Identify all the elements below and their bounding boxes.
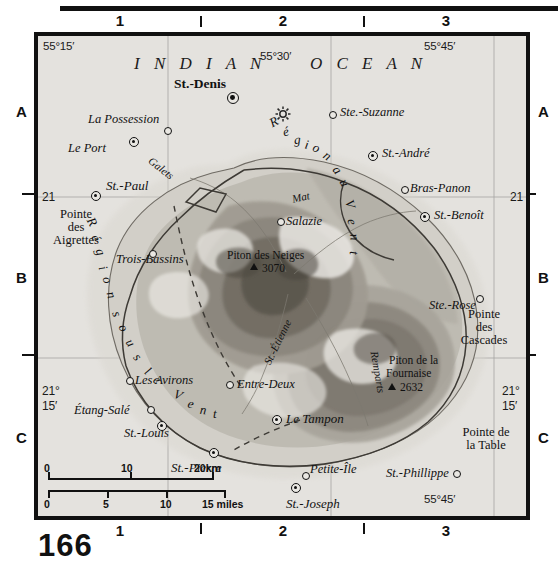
- peak-elevation-piton-de-la-fournaise: 2632: [400, 381, 423, 393]
- page-number: 166: [38, 528, 93, 564]
- latitude-label-left-lower-deg: 21°: [42, 384, 60, 398]
- grid-tick-top-2: [363, 16, 365, 27]
- town-label-bras-panon[interactable]: Bras-Panon: [410, 181, 470, 196]
- town-symbol-st-benoit[interactable]: [420, 212, 430, 222]
- peak-label-piton-de-la-fournaise-line2: Fournaise: [386, 367, 431, 379]
- town-label-la-possession[interactable]: La Possession: [88, 112, 159, 127]
- scale-mi-tick-10: [166, 490, 168, 498]
- grid-column-top-2: 2: [271, 12, 295, 29]
- city-label-st-denis[interactable]: St.-Denis: [174, 76, 226, 92]
- town-symbol-le-tampon[interactable]: [272, 415, 282, 425]
- town-symbol-les-avirons[interactable]: [126, 377, 134, 385]
- latitude-label-left-lower-min: 15′: [42, 399, 57, 413]
- scale-mi-tick-15: [224, 490, 226, 498]
- peak-marker-piton-des-neiges: [250, 263, 258, 270]
- grid-row-right-b: B: [538, 269, 549, 286]
- ocean-label-ocean: O C E A N: [310, 54, 427, 74]
- cape-label-pointe-des-cascades: Pointe des Cascades: [444, 308, 524, 347]
- grid-row-right-a: A: [538, 103, 549, 120]
- scale-mi-0: 0: [44, 498, 50, 510]
- town-label-salazie[interactable]: Salazie: [286, 214, 322, 229]
- longitude-label-west: 55°15′: [43, 40, 74, 52]
- peak-label-piton-de-la-fournaise-line1: Piton de la: [389, 354, 438, 366]
- grid-tick-bottom-1: [200, 523, 202, 534]
- latitude-label-right-lower-deg: 21°: [502, 384, 520, 398]
- scale-km-20: 20km: [194, 462, 221, 474]
- town-label-le-tampon[interactable]: Le Tampon: [286, 411, 344, 427]
- peak-elevation-piton-des-neiges: 3070: [262, 262, 285, 274]
- grid-tick-bottom-2: [363, 523, 365, 534]
- town-label-st-andre[interactable]: St.-André: [382, 146, 430, 161]
- grid-row-left-b: B: [16, 269, 27, 286]
- scale-km-tick-0: [48, 472, 50, 480]
- town-symbol-petite-ile[interactable]: [302, 472, 310, 480]
- cape-label-pointe-de-la-table: Pointe de la Table: [446, 426, 526, 452]
- grid-tick-left-2: [22, 354, 34, 356]
- town-symbol-st-andre[interactable]: [368, 151, 378, 161]
- scale-mi-10: 10: [160, 498, 172, 510]
- town-symbol-entre-deux[interactable]: [226, 381, 234, 389]
- town-label-etang-sale[interactable]: Étang-Salé: [74, 403, 130, 418]
- cape-label-pointe-des-aigrettes: Pointe des Aigrettes: [34, 208, 118, 247]
- region-letter: t: [213, 406, 217, 422]
- grid-column-top-3: 3: [434, 12, 458, 29]
- grid-column-bottom-3: 3: [434, 522, 458, 539]
- town-symbol-ste-rose[interactable]: [476, 295, 484, 303]
- town-label-ste-suzanne[interactable]: Ste.-Suzanne: [340, 105, 404, 120]
- region-letter: t: [346, 251, 362, 255]
- map-frame[interactable]: 55°15′ 55°30′ 55°45′ 55°45′ 21 21 21° 15…: [34, 32, 530, 520]
- scale-mi-tick-0: [48, 490, 50, 498]
- town-label-petite-ile[interactable]: Petite-Île: [310, 462, 357, 477]
- scale-km-tick-10: [130, 472, 132, 480]
- town-symbol-la-possession[interactable]: [164, 127, 172, 135]
- cape-line-3: Cascades: [461, 333, 508, 347]
- town-label-le-port[interactable]: Le Port: [68, 141, 106, 156]
- longitude-label-east: 55°45′: [424, 40, 455, 52]
- capital-symbol-st-denis[interactable]: [227, 92, 239, 104]
- grid-column-bottom-1: 1: [108, 522, 132, 539]
- town-symbol-ste-suzanne[interactable]: [329, 111, 337, 119]
- grid-row-right-c: C: [538, 429, 549, 446]
- town-label-st-phillippe[interactable]: St.-Phillippe: [386, 466, 449, 481]
- town-label-entre-deux[interactable]: Entre-Deux: [237, 377, 295, 392]
- town-symbol-le-port[interactable]: [129, 137, 139, 147]
- peak-label-piton-des-neiges: Piton des Neiges: [227, 249, 304, 261]
- latitude-label-right-upper: 21: [510, 190, 523, 204]
- town-label-st-benoit[interactable]: St.-Benoît: [434, 208, 484, 223]
- scale-km-tick-20: [212, 472, 214, 480]
- longitude-label-bottom-east: 55°45′: [424, 493, 455, 505]
- town-symbol-salazie[interactable]: [277, 218, 285, 226]
- grid-tick-left-1: [22, 193, 34, 195]
- town-symbol-etang-sale[interactable]: [147, 406, 155, 414]
- grid-column-bottom-2: 2: [271, 522, 295, 539]
- ocean-label-indian: I N D I A N: [134, 54, 266, 74]
- town-symbol-bras-panon[interactable]: [401, 186, 409, 194]
- town-symbol-st-louis[interactable]: [157, 421, 167, 431]
- latitude-label-right-lower-min: 15′: [502, 399, 517, 413]
- grid-row-left-a: A: [16, 103, 27, 120]
- town-label-st-paul[interactable]: St.-Paul: [106, 178, 148, 194]
- cape-line-2: la Table: [466, 438, 506, 452]
- town-symbol-st-phillippe[interactable]: [453, 470, 461, 478]
- latitude-label-left-upper: 21: [42, 190, 55, 204]
- top-divider-rule: [60, 6, 558, 11]
- town-symbol-st-joseph[interactable]: [291, 483, 301, 493]
- scale-mi-tick-5: [107, 490, 109, 498]
- town-symbol-st-paul[interactable]: [91, 191, 101, 201]
- peak-marker-piton-de-la-fournaise: [388, 383, 396, 390]
- grid-column-top-1: 1: [108, 12, 132, 29]
- scale-mi-15: 15 miles: [202, 498, 243, 510]
- town-label-st-joseph[interactable]: St.-Joseph: [286, 496, 340, 512]
- town-symbol-st-pierre[interactable]: [209, 448, 219, 458]
- scale-mi-5: 5: [103, 498, 109, 510]
- scale-mi-axis: [48, 490, 226, 492]
- grid-tick-top-1: [200, 16, 202, 27]
- town-symbol-trois-bassins[interactable]: [149, 250, 157, 258]
- grid-row-left-c: C: [16, 429, 27, 446]
- region-letter: g: [294, 132, 301, 148]
